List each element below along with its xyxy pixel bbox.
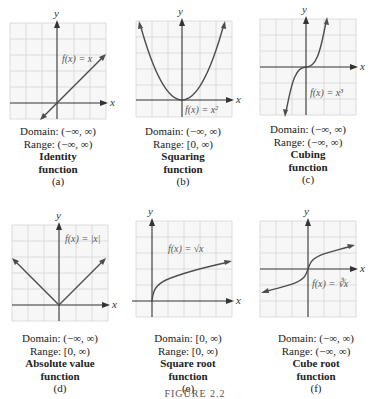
function-name: Cube root xyxy=(254,357,378,370)
graph-square-root: y x f(x) = √x xyxy=(126,208,250,333)
caption: Domain: (−∞, ∞) Range: (−∞, ∞) Identity … xyxy=(0,125,120,188)
range-text: Range: [0, ∞) xyxy=(126,345,250,358)
domain-text: Domain: (−∞, ∞) xyxy=(121,125,245,138)
domain-text: Domain: (−∞, ∞) xyxy=(0,125,120,138)
caption: Domain: (−∞, ∞) Range: (−∞, ∞) Cubing fu… xyxy=(246,123,370,186)
range-text: Range: (−∞, ∞) xyxy=(0,138,120,151)
function-name-line2: function xyxy=(0,370,122,383)
panel-letter: (a) xyxy=(0,175,120,188)
y-axis-label: y xyxy=(147,208,153,217)
domain-text: Domain: (−∞, ∞) xyxy=(246,123,370,136)
equation-label: f(x) = √x xyxy=(168,243,204,255)
range-text: Range: [0, ∞) xyxy=(0,345,122,358)
panel-letter: (f) xyxy=(254,382,378,395)
caption: Domain: (−∞, ∞) Range: (−∞, ∞) Cube root… xyxy=(254,332,378,395)
equation-label: f(x) = x xyxy=(62,53,93,65)
function-name-line2: function xyxy=(254,370,378,383)
function-name: Absolute value xyxy=(0,357,122,370)
domain-text: Domain: (−∞, ∞) xyxy=(254,332,378,345)
graph-identity: y x f(x) = x xyxy=(0,0,120,125)
equation-label: f(x) = |x| xyxy=(65,233,101,245)
y-axis-label: y xyxy=(53,7,59,19)
caption: Domain: (−∞, ∞) Range: [0, ∞) Absolute v… xyxy=(0,332,122,395)
function-name-line2: function xyxy=(246,161,370,174)
graph-cube-root: y x f(x) = ∛x xyxy=(254,208,378,333)
x-axis-label: x xyxy=(359,262,365,274)
function-name: Identity xyxy=(0,150,120,163)
function-name-line2: function xyxy=(121,163,245,176)
function-name: Square root xyxy=(126,357,250,370)
domain-text: Domain: (−∞, ∞) xyxy=(0,332,122,345)
y-axis-label: y xyxy=(301,3,307,15)
y-axis-label: y xyxy=(55,209,61,221)
range-text: Range: [0, ∞) xyxy=(121,138,245,151)
domain-text: Domain: [0, ∞) xyxy=(126,332,250,345)
caption: Domain: [0, ∞) Range: [0, ∞) Square root… xyxy=(126,332,250,395)
x-axis-label: x xyxy=(235,294,241,306)
panel-letter: (d) xyxy=(0,382,122,395)
equation-label: f(x) = x³ xyxy=(310,87,344,99)
range-text: Range: (−∞, ∞) xyxy=(246,136,370,149)
y-axis-label: y xyxy=(303,208,309,217)
graph-cubing: y x f(x) = x³ xyxy=(246,0,370,125)
panel-letter: (b) xyxy=(121,175,245,188)
graph-squaring: y x f(x) = x² xyxy=(121,0,245,125)
x-axis-label: x xyxy=(111,298,117,310)
panel-letter: (c) xyxy=(246,173,370,186)
function-name: Cubing xyxy=(246,148,370,161)
function-name-line2: function xyxy=(126,370,250,383)
equation-label: f(x) = x² xyxy=(185,104,219,116)
x-axis-label: x xyxy=(109,96,115,108)
x-axis-label: x xyxy=(359,60,365,72)
range-text: Range: (−∞, ∞) xyxy=(254,345,378,358)
graph-absolute-value: y x f(x) = |x| xyxy=(0,208,122,333)
figure-caption: FIGURE 2.2 xyxy=(140,388,250,399)
x-axis-label: x xyxy=(235,93,241,105)
function-name: Squaring xyxy=(121,150,245,163)
y-axis-label: y xyxy=(177,5,183,17)
equation-label: f(x) = ∛x xyxy=(312,277,349,290)
caption: Domain: (−∞, ∞) Range: [0, ∞) Squaring f… xyxy=(121,125,245,188)
function-name-line2: function xyxy=(0,163,120,176)
